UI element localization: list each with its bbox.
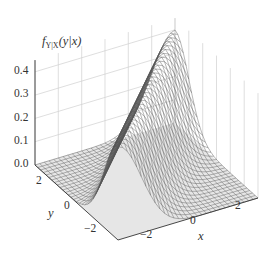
z-tick: 0.0 bbox=[14, 157, 29, 169]
surface-plot: fY|X(y|x) y x 0.4 0.3 0.2 0.1 0.0 2 0 −2… bbox=[0, 0, 275, 255]
z-tick: 0.4 bbox=[14, 64, 29, 76]
z-tick: 0.2 bbox=[14, 111, 29, 123]
x-tick: 2 bbox=[235, 199, 241, 211]
y-tick: 0 bbox=[64, 199, 70, 211]
y-axis-label: y bbox=[46, 206, 54, 220]
z-tick: 0.1 bbox=[14, 134, 29, 146]
y-tick: 2 bbox=[36, 174, 42, 186]
y-tick: −2 bbox=[84, 222, 96, 234]
z-tick: 0.3 bbox=[14, 87, 29, 99]
x-axis-label: x bbox=[197, 229, 204, 243]
x-tick: 0 bbox=[190, 214, 196, 226]
z-axis-label: fY|X(y|x) bbox=[42, 34, 82, 50]
x-tick: −2 bbox=[140, 228, 152, 240]
